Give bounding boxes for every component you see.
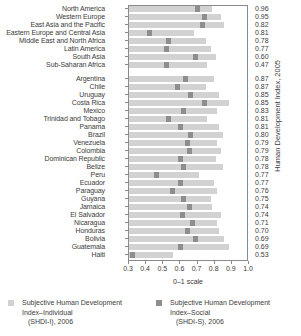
row-tick <box>125 8 128 9</box>
bar-shdi-individual <box>129 76 214 82</box>
row-tick <box>125 102 128 103</box>
marker-shdi-social <box>188 92 193 98</box>
row-tick <box>125 214 128 215</box>
row-tick <box>125 86 128 87</box>
bar-track <box>129 30 248 36</box>
bar-track <box>129 196 248 202</box>
bar-shdi-individual <box>129 132 223 138</box>
marker-shdi-social <box>147 30 152 36</box>
bar-shdi-individual <box>129 204 212 210</box>
bar-track <box>129 156 248 162</box>
bar-shdi-individual <box>129 30 194 36</box>
bar-shdi-individual <box>129 100 229 106</box>
marker-shdi-social <box>180 212 185 218</box>
bar-track <box>129 204 248 210</box>
row-tick <box>125 190 128 191</box>
x-axis-tick-label: 0.6 <box>175 265 185 273</box>
bar-track <box>129 252 248 258</box>
bar-track <box>129 84 248 90</box>
bar-shdi-individual <box>129 212 221 218</box>
bar-track <box>129 62 248 68</box>
bar-track <box>129 172 248 178</box>
marker-shdi-social <box>170 188 175 194</box>
x-axis-tick <box>145 261 146 264</box>
row-tick <box>125 206 128 207</box>
marker-shdi-social <box>130 252 135 258</box>
marker-shdi-social <box>164 46 169 52</box>
bar-track <box>129 148 248 154</box>
legend-line-2: Index–Social <box>170 308 298 318</box>
bar-track <box>129 92 248 98</box>
bar-track <box>129 124 248 130</box>
bar-shdi-individual <box>129 92 219 98</box>
x-axis-tick-label: 0.4 <box>140 265 150 273</box>
bar-shdi-individual <box>129 140 217 146</box>
marker-shdi-social <box>154 172 159 178</box>
row-tick <box>125 118 128 119</box>
bar-track <box>129 22 248 28</box>
row-tick <box>125 246 128 247</box>
row-tick <box>125 174 128 175</box>
bar-track <box>129 14 248 20</box>
bar-track <box>129 38 248 44</box>
marker-shdi-social <box>200 22 205 28</box>
bar-track <box>129 116 248 122</box>
chart-container: North America0.96Western Europe0.95East … <box>0 0 301 336</box>
row-tick <box>125 254 128 255</box>
bar-track <box>129 236 248 242</box>
marker-shdi-social <box>202 14 207 20</box>
bar-shdi-individual <box>129 108 217 114</box>
row-tick <box>125 158 128 159</box>
row-tick <box>125 134 128 135</box>
bar-shdi-individual <box>129 236 224 242</box>
row-label: Sub-Saharan Africa <box>0 60 105 69</box>
bar-track <box>129 220 248 226</box>
bar-shdi-individual <box>129 156 216 162</box>
bar-track <box>129 244 248 250</box>
row-tick <box>125 126 128 127</box>
legend-line-3: (SHDI-S), 2006 <box>170 317 298 327</box>
x-axis-tick <box>248 261 249 264</box>
row-tick <box>125 48 128 49</box>
row-label: Haiti <box>0 250 105 259</box>
bar-track <box>129 140 248 146</box>
bar-shdi-individual <box>129 54 216 60</box>
legend-line-1: Subjective Human Development <box>170 298 298 308</box>
marker-shdi-social <box>178 124 183 130</box>
bar-track <box>129 180 248 186</box>
bar-shdi-individual <box>129 220 217 226</box>
bar-track <box>129 76 248 82</box>
row-tick <box>125 16 128 17</box>
bar-track <box>129 132 248 138</box>
bar-shdi-individual <box>129 196 211 202</box>
bar-shdi-individual <box>129 46 211 52</box>
chart-rows: North America0.96Western Europe0.95East … <box>0 5 301 259</box>
row-tick <box>125 78 128 79</box>
marker-shdi-social <box>175 84 180 90</box>
x-axis-tick <box>214 261 215 264</box>
x-axis-tick <box>197 261 198 264</box>
x-axis-tick-label: 0.8 <box>209 265 219 273</box>
chart-row: Sub-Saharan Africa0.47 <box>0 61 301 69</box>
x-axis-tick-label: 0.3 <box>123 265 133 273</box>
row-tick <box>125 238 128 239</box>
legend-swatch-icon <box>8 300 14 306</box>
row-tick <box>125 56 128 57</box>
row-tick <box>125 150 128 151</box>
x-axis-tick-label: 1.0 <box>243 265 253 273</box>
bar-track <box>129 228 248 234</box>
row-tick <box>125 32 128 33</box>
row-tick <box>125 94 128 95</box>
bar-shdi-individual <box>129 252 173 258</box>
marker-shdi-social <box>193 236 198 242</box>
bar-shdi-individual <box>129 148 221 154</box>
marker-shdi-social <box>185 228 190 234</box>
bar-track <box>129 164 248 170</box>
bar-track <box>129 6 248 12</box>
marker-shdi-social <box>181 164 186 170</box>
row-tick <box>125 166 128 167</box>
row-tick <box>125 230 128 231</box>
marker-shdi-social <box>178 156 183 162</box>
row-hdi-value: 0.53 <box>255 250 269 259</box>
marker-shdi-social <box>187 204 192 210</box>
